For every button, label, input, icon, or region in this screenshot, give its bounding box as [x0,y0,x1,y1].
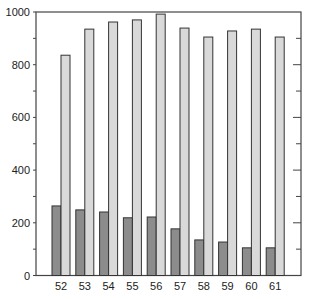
x-axis: 52535455565758596061 [55,280,281,292]
bar-light-57 [180,28,189,275]
x-tick-label: 58 [198,280,210,292]
x-tick-label: 60 [245,280,257,292]
bar-dark-52 [52,206,61,276]
x-tick-label: 53 [79,280,91,292]
y-tick-label: 800 [12,59,30,71]
bar-light-54 [109,22,118,275]
bar-light-60 [251,29,260,275]
x-tick-label: 57 [174,280,186,292]
y-tick-label: 1000 [6,6,30,18]
bar-dark-53 [76,210,85,276]
x-tick-label: 59 [221,280,233,292]
x-tick-label: 55 [126,280,138,292]
bars [52,14,284,275]
y-tick-label: 200 [12,217,30,229]
bar-light-52 [61,55,70,275]
y-tick-label: 600 [12,111,30,123]
bar-chart: 02004006008001000 52535455565758596061 [0,0,311,299]
bar-dark-61 [266,248,275,276]
bar-dark-56 [147,217,156,275]
bar-dark-59 [219,242,228,275]
bar-light-56 [156,14,165,275]
x-tick-label: 54 [102,280,114,292]
bar-light-61 [275,37,284,275]
x-tick-label: 56 [150,280,162,292]
bar-dark-58 [195,240,204,276]
bar-light-59 [228,31,237,276]
bar-dark-57 [171,229,180,276]
bar-light-58 [204,37,213,275]
x-tick-label: 52 [55,280,67,292]
y-tick-label: 400 [12,164,30,176]
bar-dark-55 [123,218,132,276]
bar-dark-60 [242,248,251,276]
bar-light-53 [85,29,94,275]
y-tick-label: 0 [24,270,30,282]
bar-light-55 [132,20,141,276]
bar-dark-54 [100,212,109,276]
x-tick-label: 61 [269,280,281,292]
